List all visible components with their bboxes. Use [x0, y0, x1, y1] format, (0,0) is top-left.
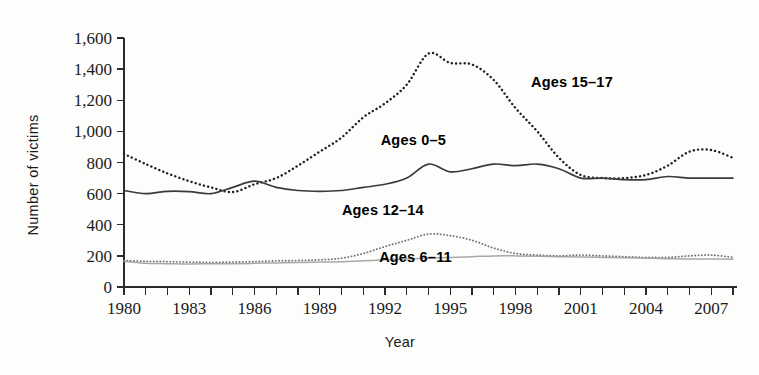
y-tick-label: 1,600: [74, 29, 112, 48]
x-tick-label: 2004: [629, 299, 664, 318]
x-tick-label: 2001: [564, 299, 598, 318]
x-tick-label: 1983: [172, 299, 206, 318]
y-tick-label: 1,400: [74, 60, 112, 79]
x-tick-label: 1989: [303, 299, 337, 318]
y-tick-label: 800: [87, 154, 113, 173]
figure-background: [0, 0, 759, 375]
chart-canvas: 02004006008001,0001,2001,4001,600 198019…: [0, 0, 759, 375]
y-axis-title: Number of victims: [25, 114, 41, 235]
x-tick-label: 1992: [368, 299, 402, 318]
x-tick-label: 1986: [238, 299, 272, 318]
chart-figure: 02004006008001,0001,2001,4001,600 198019…: [0, 0, 759, 375]
x-tick-label: 2007: [694, 299, 729, 318]
y-tick-label: 400: [87, 216, 113, 235]
series-annotation-ages-6-11: Ages 6–11: [379, 249, 452, 265]
x-axis-title: Year: [385, 334, 416, 350]
y-tick-label: 1,000: [74, 122, 112, 141]
y-tick-label: 0: [104, 278, 113, 297]
series-annotation-ages-12-14: Ages 12–14: [342, 202, 424, 218]
y-tick-label: 1,200: [74, 91, 112, 110]
plot-background: [0, 0, 759, 375]
y-tick-label: 200: [87, 247, 113, 266]
x-tick-label: 1995: [433, 299, 467, 318]
y-tick-label: 600: [87, 185, 113, 204]
x-tick-label: 1998: [499, 299, 533, 318]
series-annotation-ages-15-17: Ages 15–17: [531, 74, 613, 90]
series-annotation-ages-0-5: Ages 0–5: [381, 132, 446, 148]
x-tick-label: 1980: [107, 299, 141, 318]
